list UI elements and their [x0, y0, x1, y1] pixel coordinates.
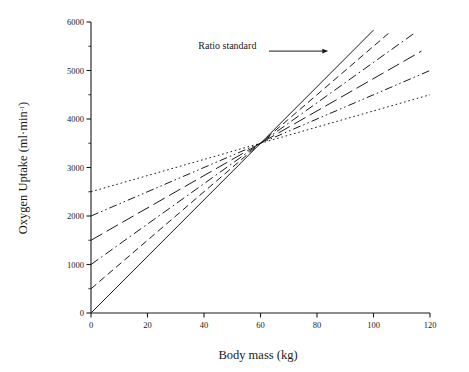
y-axis-title-close: )	[16, 102, 30, 106]
oxygen-uptake-chart-figure: 0204060801001200100020003000400050006000…	[0, 0, 469, 372]
y-tick-label-1: 1000	[67, 260, 84, 270]
series-line-0	[91, 30, 374, 313]
y-axis-title: Oxygen Uptake (ml·min-1)	[16, 102, 30, 234]
x-tick-label-5: 100	[367, 320, 380, 330]
x-axis-title: Body mass (kg)	[218, 348, 297, 362]
annotation-label-0: Ratio standard	[198, 40, 256, 51]
series-line-1	[91, 32, 390, 289]
y-tick-label-2: 2000	[67, 211, 84, 221]
y-tick-label-5: 5000	[67, 66, 84, 76]
y-tick-label-6: 6000	[67, 17, 84, 27]
series-line-5	[91, 95, 430, 192]
series-group	[91, 30, 430, 313]
annotation-arrow-head-0	[322, 49, 328, 54]
tick-labels-group: 0204060801001200100020003000400050006000	[67, 17, 436, 330]
y-tick-label-0: 0	[80, 308, 84, 318]
axes-group	[91, 22, 430, 313]
chart-canvas: 0204060801001200100020003000400050006000…	[0, 0, 469, 372]
series-line-2	[91, 32, 416, 264]
y-tick-label-3: 3000	[67, 163, 84, 173]
annotation-group: Ratio standard	[198, 40, 328, 54]
ticks-group	[87, 22, 431, 318]
x-tick-label-6: 120	[424, 320, 437, 330]
y-axis-title-main: Oxygen Uptake (ml·min	[16, 111, 30, 235]
y-tick-label-4: 4000	[67, 114, 84, 124]
x-tick-label-4: 80	[313, 320, 322, 330]
series-line-3	[91, 51, 422, 240]
x-tick-label-1: 20	[143, 320, 152, 330]
x-tick-label-3: 60	[256, 320, 265, 330]
x-tick-label-0: 0	[89, 320, 93, 330]
x-tick-label-2: 40	[200, 320, 209, 330]
